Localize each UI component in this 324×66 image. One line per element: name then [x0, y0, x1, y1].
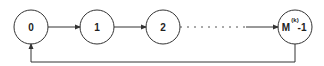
feedback-loop-arrow — [31, 44, 295, 62]
node-last: M (k) -1 — [278, 10, 312, 44]
node-last-base: M — [282, 22, 290, 33]
state-cycle-diagram: 0 1 2 M (k) -1 — [0, 0, 324, 66]
node-0-label: 0 — [28, 22, 34, 33]
node-2: 2 — [146, 10, 180, 44]
node-1-label: 1 — [94, 22, 100, 33]
node-1: 1 — [80, 10, 114, 44]
node-0: 0 — [14, 10, 48, 44]
node-2-label: 2 — [160, 22, 166, 33]
node-last-suffix: -1 — [298, 22, 307, 33]
